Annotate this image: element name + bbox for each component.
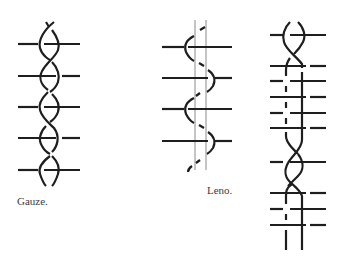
combined-warps xyxy=(283,22,304,250)
leno-caption: Leno. xyxy=(207,184,232,196)
combined-weft-lines xyxy=(270,35,326,225)
gauze-twisting-warps xyxy=(39,22,58,186)
gauze-caption: Gauze. xyxy=(17,195,48,207)
leno-diagram xyxy=(162,20,232,172)
weave-diagrams xyxy=(0,0,343,259)
gauze-diagram xyxy=(18,22,80,186)
leno-combined-diagram xyxy=(270,22,326,250)
leno-crossing-warp xyxy=(185,27,214,172)
